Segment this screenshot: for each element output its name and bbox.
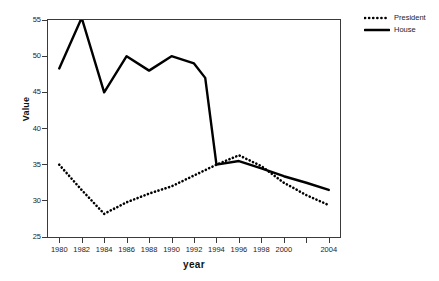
series-line-president	[59, 155, 329, 214]
x-tick-mark	[149, 238, 150, 243]
x-tick-mark	[329, 238, 330, 243]
y-tick-label: 50	[0, 51, 47, 61]
x-tick-mark	[82, 238, 83, 243]
y-tick-label: 30	[0, 196, 47, 206]
x-tick-mark	[306, 238, 307, 243]
x-tick-mark	[239, 238, 240, 243]
solid-line-icon	[364, 25, 390, 35]
y-tick-label: 40	[0, 124, 47, 134]
x-tick-mark	[59, 238, 60, 243]
y-tick-label: 55	[0, 15, 47, 25]
x-tick-label: 2000	[264, 245, 304, 255]
x-tick-mark	[127, 238, 128, 243]
x-tick-mark	[172, 238, 173, 243]
series-line-house	[59, 20, 329, 190]
x-axis-title: year	[47, 259, 341, 270]
x-tick-mark	[216, 238, 217, 243]
legend-label: President	[394, 13, 426, 23]
legend-entry: President	[364, 12, 426, 24]
y-tick-label: 35	[0, 160, 47, 170]
plot-area	[47, 19, 341, 238]
dotted-line-icon	[364, 13, 390, 23]
legend-entry: House	[364, 24, 426, 36]
x-tick-mark	[194, 238, 195, 243]
y-tick-label: 25	[0, 232, 47, 242]
x-tick-mark	[261, 238, 262, 243]
series-lines	[48, 20, 340, 237]
x-tick-mark	[104, 238, 105, 243]
x-tick-label: 2004	[309, 245, 349, 255]
chart-legend: PresidentHouse	[364, 12, 426, 36]
legend-label: House	[394, 25, 416, 35]
x-tick-mark	[284, 238, 285, 243]
y-tick-label: 45	[0, 87, 47, 97]
chart-figure: Value 25303540455055 1980198219841986198…	[0, 0, 439, 281]
